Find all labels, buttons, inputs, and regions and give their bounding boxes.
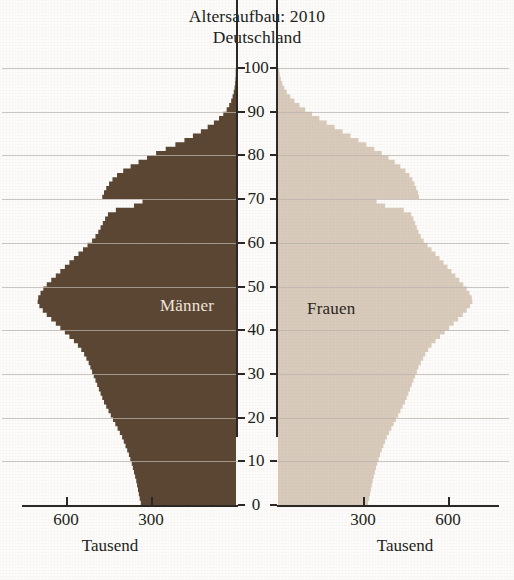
series-caption-male: Männer [160,296,214,316]
x-tick-label-right-600: 600 [413,510,483,530]
gridline-age-100 [277,68,509,69]
page-title: Altersaufbau: 2010 [0,6,514,27]
gridline-age-80 [2,155,238,156]
gridline-age-60 [277,243,509,244]
y-tick-label-0: 0 [236,495,276,515]
gridline-age-10 [2,461,238,462]
gridline-age-30 [2,374,238,375]
y-tick-label-10: 10 [236,451,276,471]
gridline-age-60 [2,243,238,244]
gridline-age-100 [2,68,238,69]
x-tick-label-left-300: 300 [116,510,186,530]
x-tick-right-600 [448,497,450,505]
y-tick-label-30: 30 [236,364,276,384]
female-axis-spine [276,0,278,437]
gridline-age-30 [277,374,509,375]
x-tick-label-right-300: 300 [328,510,398,530]
gridline-age-40 [2,330,238,331]
x-unit-right: Tausend [330,536,480,556]
male-axis-spine [236,0,238,437]
y-tick-label-90: 90 [236,102,276,122]
x-tick-right-300 [363,497,365,505]
gridline-age-20 [2,418,238,419]
gridline-age-40 [277,330,509,331]
gridline-age-80 [277,155,509,156]
gridline-age-90 [277,112,509,113]
female-baseline [277,505,499,507]
x-tick-left-600 [66,497,68,505]
page-subtitle: Deutschland [0,27,514,48]
y-tick-label-60: 60 [236,233,276,253]
y-tick-label-80: 80 [236,145,276,165]
gridline-age-20 [277,418,509,419]
y-tick-label-20: 20 [236,408,276,428]
gridline-age-70 [277,199,509,200]
gridline-age-10 [277,461,509,462]
y-tick-label-100: 100 [236,58,276,78]
gridline-age-50 [2,287,238,288]
chart-page: Altersaufbau: 2010 Deutschland 010203040… [0,0,514,580]
x-tick-left-300 [151,497,153,505]
x-unit-left: Tausend [35,536,185,556]
y-tick-label-70: 70 [236,189,276,209]
gridline-age-50 [277,287,509,288]
male-baseline [22,505,238,507]
series-caption-female: Frauen [307,299,355,319]
gridline-age-90 [2,112,238,113]
y-tick-label-40: 40 [236,320,276,340]
gridline-age-70 [2,199,238,200]
chart-title: Altersaufbau: 2010 Deutschland [0,6,514,47]
y-tick-label-50: 50 [236,277,276,297]
x-tick-label-left-600: 600 [31,510,101,530]
